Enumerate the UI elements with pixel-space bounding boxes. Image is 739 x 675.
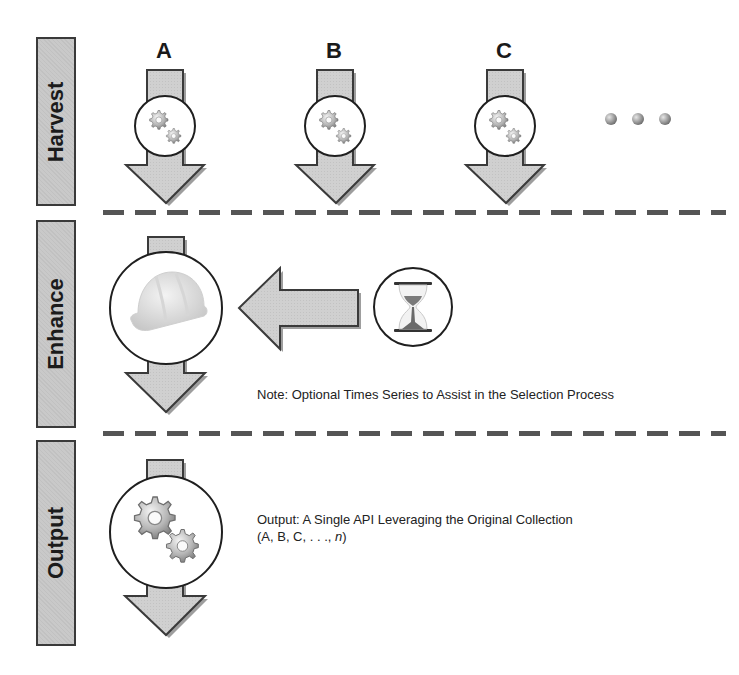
harvest-arrow-c [466,70,547,206]
harvest-arrow-a [126,70,207,206]
output-text-suffix: ) [342,529,346,544]
enhance-note: Note: Optional Times Series to Assist in… [257,386,614,403]
output-text-prefix: (A, B, C, . . ., [257,529,335,544]
diagram-canvas [0,0,739,675]
hourglass-icon [374,268,452,346]
output-text-line1: Output: A Single API Leveraging the Orig… [257,511,573,528]
harvest-arrow-b [296,70,377,206]
output-description: Output: A Single API Leveraging the Orig… [257,511,573,545]
enhance-arrow [110,237,222,415]
ellipsis-dots-icon [605,113,671,125]
output-arrow [110,460,222,638]
output-text-line2: (A, B, C, . . ., n) [257,528,573,545]
left-arrow [239,268,361,352]
